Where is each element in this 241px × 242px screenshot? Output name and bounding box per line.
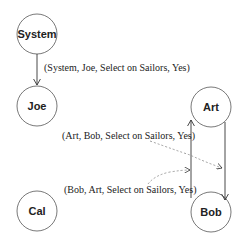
node-system-label: System (17, 28, 56, 40)
node-bob-label: Bob (200, 206, 222, 218)
node-cal-label: Cal (28, 205, 45, 217)
edge-label-bob-art: (Bob, Art, Select on Sailors, Yes) (64, 184, 197, 196)
node-cal: Cal (17, 191, 57, 231)
node-art: Art (191, 87, 231, 127)
node-joe: Joe (17, 86, 57, 126)
node-art-label: Art (203, 101, 219, 113)
edge-label-system-joe: (System, Joe, Select on Sailors, Yes) (44, 62, 190, 74)
edge-label-pointer-bob-art (148, 170, 190, 184)
node-system: System (17, 14, 57, 54)
node-joe-label: Joe (28, 100, 47, 112)
edge-label-art-bob: (Art, Bob, Select on Sailors, Yes) (62, 130, 195, 142)
grant-graph-diagram: System Joe Cal Art Bob (System, Joe, Sel… (0, 0, 241, 242)
edge-label-pointer-art-bob (150, 141, 222, 168)
